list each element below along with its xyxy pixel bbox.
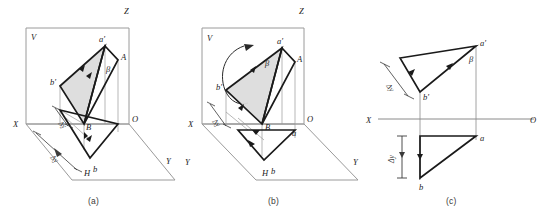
panel-a-a-prime-label: a' xyxy=(99,34,105,44)
panel-b-y-axis-left-label: Y xyxy=(185,157,191,167)
upper-triangle xyxy=(400,46,476,92)
panel-a-z-axis-label: Z xyxy=(124,6,129,16)
panel-b-a-label: a xyxy=(292,128,296,138)
panel-c-b-prime-label: b' xyxy=(423,92,429,102)
panel-a-origin-label: O xyxy=(132,114,138,124)
panel-a-beta-label: β xyxy=(105,64,111,74)
panel-b-delta-y-label: Δy xyxy=(210,116,223,129)
panel-c-a-label: a xyxy=(480,133,484,143)
panel-c-beta-label: β xyxy=(468,54,474,64)
panel-a-h-plane-label: H xyxy=(83,168,91,178)
panel-c: Δy Δy X O a' b' β a b (c) xyxy=(364,0,546,220)
panel-b-b-prime-label: b' xyxy=(216,82,222,92)
panel-b-y-axis-right-label: Y xyxy=(353,157,359,167)
panel-a-drawing: Δy Δy V Z X Y O a' b' A B β H b xyxy=(0,0,182,220)
panel-a-b-label: b xyxy=(93,164,97,174)
panel-b-z-axis-label: Z xyxy=(299,6,304,16)
panel-c-delta-y-upper-label: Δy xyxy=(384,81,397,94)
panel-b-b-label: b xyxy=(271,166,275,176)
panel-b-v-plane-label: V xyxy=(207,33,214,43)
edge-arrowheads xyxy=(408,63,453,160)
h-projection-triangle xyxy=(238,130,295,160)
panel-b: Δy V Z X Y Y O a' b' A B β a H b (b) xyxy=(182,0,364,220)
panel-c-b-label: b xyxy=(419,182,423,192)
lower-triangle xyxy=(420,136,476,178)
panel-b-x-axis-label: X xyxy=(187,119,194,129)
panel-c-a-prime-label: a' xyxy=(480,38,486,48)
panel-a-x-axis-label: X xyxy=(12,119,19,129)
delta-y-lower-dimension xyxy=(33,131,82,172)
panel-a-v-plane-label: V xyxy=(31,32,38,42)
panel-b-h-plane-label: H xyxy=(261,168,269,178)
shaded-triangle xyxy=(226,48,282,124)
panel-b-a-prime-label: a' xyxy=(277,36,283,46)
h-plane-outline xyxy=(202,124,358,180)
panel-b-caption: (b) xyxy=(268,196,279,206)
delta-y-upper-dimension xyxy=(380,62,414,99)
panel-a: Δy Δy V Z X Y O a' b' A B β H b (a) xyxy=(0,0,182,220)
panel-c-delta-y-lower-label: Δy xyxy=(387,155,396,164)
panel-c-x-axis-label: X xyxy=(365,115,372,125)
h-plane-outline xyxy=(26,124,175,180)
panel-c-drawing: Δy Δy X O a' b' β a b xyxy=(364,0,546,220)
panel-a-B-label: B xyxy=(86,122,91,132)
panel-b-B-label: B xyxy=(265,122,270,132)
panel-b-origin-label: O xyxy=(307,114,313,124)
panel-b-drawing: Δy V Z X Y Y O a' b' A B β a H b xyxy=(182,0,364,220)
panel-b-A-label: A xyxy=(296,54,303,64)
panel-a-caption: (a) xyxy=(88,196,99,206)
panel-b-beta-label: β xyxy=(264,58,270,68)
panel-c-origin-label: O xyxy=(530,115,536,125)
panel-a-A-label: A xyxy=(120,52,127,62)
panel-a-y-axis-label: Y xyxy=(166,156,172,166)
panel-c-caption: (c) xyxy=(446,196,457,206)
panel-a-b-prime-label: b' xyxy=(50,77,56,87)
h-projection-triangle xyxy=(60,110,118,158)
delta-y-lower-dimension xyxy=(397,136,407,178)
